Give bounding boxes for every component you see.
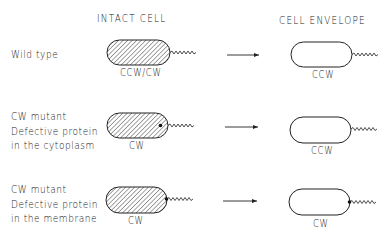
flagellum-icon	[351, 128, 377, 131]
row-cw-mutant-membrane	[106, 187, 376, 215]
envelope-rotation-label-cw-membrane: CW	[313, 219, 329, 229]
row-wild-type	[107, 40, 378, 67]
flagellum-icon	[167, 198, 193, 201]
envelope-rotation-label-cw-cytoplasm: CCW	[311, 146, 333, 156]
intact-rotation-label-wild-type: CCW/CW	[120, 68, 162, 78]
intact-cell-cw-membrane	[106, 187, 193, 213]
cell-diagram	[0, 0, 385, 235]
envelope-wild-type	[291, 42, 378, 67]
flagellum-icon	[352, 53, 378, 56]
flagellum-icon	[350, 201, 376, 204]
defective-protein-dot-icon	[165, 197, 169, 201]
envelope-rotation-label-wild-type: CCW	[312, 70, 334, 80]
intact-rotation-label-cw-cytoplasm: CW	[129, 141, 145, 151]
intact-rotation-label-cw-membrane: CW	[128, 216, 144, 226]
flagellum-icon	[168, 124, 194, 127]
row-cw-mutant-cytoplasm	[107, 113, 377, 143]
flagellum-icon	[170, 51, 196, 54]
defective-protein-dot-icon	[348, 200, 352, 204]
envelope-cw-membrane	[289, 189, 376, 215]
intact-cell-wild-type	[107, 40, 196, 65]
intact-cell-cw-cytoplasm	[107, 113, 194, 138]
envelope-cw-cytoplasm	[290, 117, 377, 143]
defective-protein-dot-icon	[159, 124, 163, 128]
